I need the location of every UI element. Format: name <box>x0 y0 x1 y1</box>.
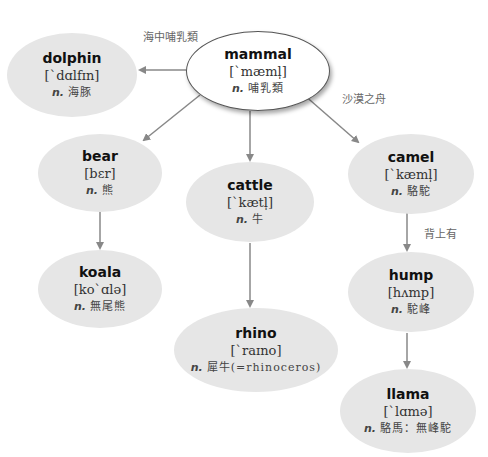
node-word: koala <box>79 263 121 281</box>
node-ipa: [hʌmp] <box>388 284 435 302</box>
node-ipa: [ˋmæml̩] <box>229 63 287 81</box>
part-of-speech: n. <box>236 213 248 226</box>
part-of-speech: n. <box>364 422 376 435</box>
node-koala: koala [koˋɑlə] n.無尾熊 <box>38 250 162 328</box>
node-ipa: [ˋkæml̩] <box>384 166 437 184</box>
node-hump: hump [hʌmp] n.駝峰 <box>348 252 474 332</box>
node-rhino: rhino [ˋraɪno] n.犀牛(=rhinoceros) <box>174 308 338 392</box>
edge-label-mammal-dolphin: 海中哺乳類 <box>143 28 198 44</box>
meaning: 牛 <box>252 213 264 226</box>
node-word: mammal <box>224 45 291 63</box>
node-dolphin: dolphin [ˋdɑlfɪn] n.海豚 <box>7 33 137 117</box>
node-word: camel <box>388 148 435 166</box>
node-mammal-root: mammal [ˋmæml̩] n.哺乳類 <box>186 31 330 111</box>
part-of-speech: n. <box>391 185 403 198</box>
node-word: cattle <box>227 176 272 194</box>
node-ipa: [koˋɑlə] <box>74 281 127 299</box>
node-ipa: [ˋkætl̩] <box>227 194 273 212</box>
meaning: 無尾熊 <box>90 300 126 313</box>
meaning: 駝峰 <box>407 303 431 316</box>
node-definition: n.犀牛(=rhinoceros) <box>191 360 322 376</box>
node-ipa: [ˋraɪno] <box>231 342 282 360</box>
meaning: 犀牛(=rhinoceros) <box>207 361 322 374</box>
node-word: bear <box>82 147 118 165</box>
part-of-speech: n. <box>74 300 86 313</box>
node-cattle: cattle [ˋkætl̩] n.牛 <box>186 162 314 242</box>
part-of-speech: n. <box>391 303 403 316</box>
meaning: 熊 <box>102 184 114 197</box>
node-word: rhino <box>235 324 276 342</box>
node-definition: n.駱馬：無峰駝 <box>364 421 452 437</box>
node-ipa: [ˋlɑmə] <box>383 403 432 421</box>
part-of-speech: n. <box>52 86 64 99</box>
node-definition: n.哺乳類 <box>232 81 284 97</box>
node-word: llama <box>386 385 429 403</box>
part-of-speech: n. <box>86 184 98 197</box>
concept-map: 海中哺乳類 沙漠之舟 背上有 dolphin [ˋdɑlfɪn] n.海豚 ma… <box>0 0 488 457</box>
node-llama: llama [ˋlɑmə] n.駱馬：無峰駝 <box>340 369 476 453</box>
edge-label-camel-hump: 背上有 <box>424 225 457 241</box>
node-definition: n.牛 <box>236 212 264 228</box>
edge-mammal-bear <box>144 95 200 140</box>
edge-label-mammal-camel: 沙漠之舟 <box>342 90 386 106</box>
node-definition: n.駱駝 <box>391 184 431 200</box>
meaning: 駱馬：無峰駝 <box>380 422 452 435</box>
node-ipa: [bɛr] <box>84 165 115 183</box>
node-definition: n.無尾熊 <box>74 299 126 315</box>
meaning: 哺乳類 <box>248 82 284 95</box>
node-word: hump <box>389 266 434 284</box>
node-definition: n.熊 <box>86 183 114 199</box>
node-ipa: [ˋdɑlfɪn] <box>45 67 100 85</box>
part-of-speech: n. <box>232 82 244 95</box>
part-of-speech: n. <box>191 361 203 374</box>
node-bear: bear [bɛr] n.熊 <box>38 134 162 212</box>
meaning: 駱駝 <box>407 185 431 198</box>
meaning: 海豚 <box>68 86 92 99</box>
node-word: dolphin <box>42 49 101 67</box>
node-definition: n.海豚 <box>52 85 92 101</box>
node-camel: camel [ˋkæml̩] n.駱駝 <box>348 134 474 214</box>
node-definition: n.駝峰 <box>391 302 431 318</box>
